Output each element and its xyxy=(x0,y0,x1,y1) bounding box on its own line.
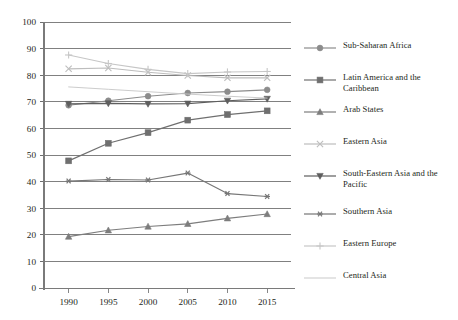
series-line xyxy=(69,214,268,237)
legend-marker-x-icon xyxy=(303,137,337,151)
x-tick-label: 2005 xyxy=(179,297,198,307)
y-tick-label: 100 xyxy=(22,17,36,27)
chart-series xyxy=(69,87,268,98)
chart-legend: Sub-Saharan AfricaLatin America and the … xyxy=(303,0,458,320)
series-line xyxy=(69,87,268,98)
data-point-marker xyxy=(65,51,72,58)
legend-swatch xyxy=(303,169,337,183)
x-tick-label: 1995 xyxy=(99,297,118,307)
legend-item-label: Sub-Saharan Africa xyxy=(337,40,411,51)
legend-swatch xyxy=(303,41,337,55)
data-point-marker xyxy=(264,108,270,114)
data-point-marker xyxy=(145,130,151,136)
legend-item[interactable]: Eastern Europe xyxy=(303,238,396,253)
data-point-marker xyxy=(264,87,270,93)
data-point-marker xyxy=(317,45,323,51)
data-point-marker xyxy=(225,191,231,196)
series-line xyxy=(69,68,268,78)
legend-swatch xyxy=(303,137,337,151)
data-point-marker xyxy=(264,194,270,199)
series-line xyxy=(69,55,268,74)
legend-item[interactable]: Sub-Saharan Africa xyxy=(303,40,411,55)
legend-swatch xyxy=(303,73,337,87)
series-line xyxy=(69,90,268,105)
legend-item-label: Southern Asia xyxy=(337,206,392,217)
legend-item[interactable]: Eastern Asia xyxy=(303,136,387,151)
y-tick-label: 30 xyxy=(27,204,37,214)
chart-figure: 0102030405060708090100199019952000200520… xyxy=(0,0,458,320)
legend-swatch xyxy=(303,105,337,119)
y-tick-label: 60 xyxy=(27,124,37,134)
series-line xyxy=(69,111,268,161)
line-chart-plot: 0102030405060708090100199019952000200520… xyxy=(0,0,300,320)
legend-item[interactable]: Arab States xyxy=(303,104,383,119)
x-tick-label: 2010 xyxy=(218,297,237,307)
y-tick-label: 0 xyxy=(31,283,36,293)
x-tick-label: 1990 xyxy=(59,297,78,307)
legend-marker-circle-icon xyxy=(303,41,337,55)
y-tick-label: 70 xyxy=(27,97,37,107)
data-point-marker xyxy=(66,179,72,184)
legend-marker-triangle-up-icon xyxy=(303,105,337,119)
legend-item-label: Latin America and the Caribbean xyxy=(337,72,458,95)
data-point-marker xyxy=(317,77,323,83)
legend-item[interactable]: Latin America and the Caribbean xyxy=(303,72,458,95)
data-point-marker xyxy=(185,117,191,123)
data-point-marker xyxy=(317,212,323,217)
data-point-marker xyxy=(145,93,151,99)
legend-item[interactable]: Central Asia xyxy=(303,270,386,285)
data-point-marker xyxy=(225,89,231,95)
chart-series xyxy=(66,87,270,108)
data-point-marker xyxy=(185,90,191,96)
y-tick-label: 40 xyxy=(27,177,37,187)
legend-swatch xyxy=(303,239,337,253)
chart-series xyxy=(66,108,270,164)
legend-marker-plus-icon xyxy=(303,239,337,253)
legend-marker-none-icon xyxy=(303,271,337,285)
data-point-marker xyxy=(264,211,270,217)
data-point-marker xyxy=(316,242,323,249)
y-tick-label: 50 xyxy=(27,150,37,160)
legend-item-label: South-Eastern Asia and the Pacific xyxy=(337,168,458,191)
legend-item[interactable]: Southern Asia xyxy=(303,206,392,221)
series-line xyxy=(69,173,268,196)
data-point-marker xyxy=(224,68,231,75)
data-point-marker xyxy=(185,171,191,176)
legend-swatch xyxy=(303,207,337,221)
legend-item-label: Arab States xyxy=(337,104,383,115)
legend-item[interactable]: South-Eastern Asia and the Pacific xyxy=(303,168,458,191)
data-point-marker xyxy=(66,158,72,164)
legend-item-label: Eastern Europe xyxy=(337,238,396,249)
y-tick-label: 10 xyxy=(27,257,37,267)
y-tick-label: 80 xyxy=(27,71,37,81)
data-point-marker xyxy=(105,140,111,146)
data-point-marker xyxy=(106,177,112,182)
legend-marker-square-icon xyxy=(303,73,337,87)
x-tick-label: 2000 xyxy=(139,297,158,307)
y-tick-label: 20 xyxy=(27,230,37,240)
legend-marker-triangle-down-icon xyxy=(303,169,337,183)
y-tick-label: 90 xyxy=(27,44,37,54)
legend-swatch xyxy=(303,271,337,285)
data-point-marker xyxy=(264,68,271,75)
data-point-marker xyxy=(225,112,231,118)
chart-canvas: 0102030405060708090100199019952000200520… xyxy=(0,0,300,320)
legend-item-label: Eastern Asia xyxy=(337,136,387,147)
chart-series xyxy=(66,65,271,81)
legend-marker-asterisk-icon xyxy=(303,207,337,221)
legend-item-label: Central Asia xyxy=(337,270,386,281)
x-tick-label: 2015 xyxy=(258,297,277,307)
chart-series xyxy=(66,171,270,199)
